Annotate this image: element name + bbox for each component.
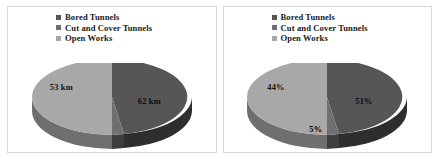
pie-side-cut-and-cover bbox=[327, 134, 339, 149]
legend-swatch-square-icon bbox=[56, 15, 61, 20]
chart-panel-km: Bored Tunnels Cut and Cover Tunnels Open… bbox=[7, 6, 217, 153]
data-label-bored-tunnels: 62 km bbox=[138, 97, 161, 106]
data-label-cut-and-cover: 5% bbox=[309, 125, 322, 134]
legend-item-label: Open Works bbox=[65, 34, 112, 43]
pie-side-cut-and-cover bbox=[112, 134, 124, 149]
legend-item-cut-and-cover-tunnels: Cut and Cover Tunnels bbox=[272, 24, 368, 33]
data-label-bored-tunnels: 51% bbox=[355, 97, 372, 106]
legend-swatch-square-icon bbox=[272, 25, 277, 30]
pie-chart-graphic bbox=[26, 63, 198, 153]
legend-swatch-square-icon bbox=[56, 36, 61, 41]
legend-swatch-square-icon bbox=[272, 36, 277, 41]
legend-item-label: Bored Tunnels bbox=[65, 13, 119, 22]
figure-container: Bored Tunnels Cut and Cover Tunnels Open… bbox=[0, 0, 439, 167]
legend-swatch-square-icon bbox=[56, 25, 61, 30]
legend: Bored Tunnels Cut and Cover Tunnels Open… bbox=[224, 13, 432, 43]
pie-chart-graphic bbox=[241, 63, 413, 153]
legend: Bored Tunnels Cut and Cover Tunnels Open… bbox=[8, 13, 216, 43]
legend-item-label: Open Works bbox=[281, 34, 328, 43]
legend-item-open-works: Open Works bbox=[56, 34, 112, 43]
legend-item-bored-tunnels: Bored Tunnels bbox=[272, 13, 335, 22]
legend-item-open-works: Open Works bbox=[272, 34, 328, 43]
legend-item-cut-and-cover-tunnels: Cut and Cover Tunnels bbox=[56, 24, 152, 33]
legend-item-label: Cut and Cover Tunnels bbox=[281, 24, 368, 33]
legend-item-bored-tunnels: Bored Tunnels bbox=[56, 13, 119, 22]
legend-swatch-square-icon bbox=[272, 15, 277, 20]
chart-panel-percent: Bored Tunnels Cut and Cover Tunnels Open… bbox=[223, 6, 433, 153]
legend-item-label: Bored Tunnels bbox=[281, 13, 335, 22]
pie-chart-percent: 44% 51% 5% bbox=[241, 63, 413, 153]
pie-chart-km: 53 km 62 km 6 km bbox=[26, 63, 198, 153]
data-label-open-works: 44% bbox=[267, 83, 284, 92]
legend-item-label: Cut and Cover Tunnels bbox=[65, 24, 152, 33]
data-label-open-works: 53 km bbox=[50, 83, 73, 92]
